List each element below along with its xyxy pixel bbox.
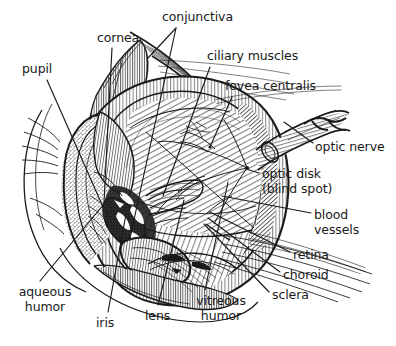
label-pupil: pupil	[22, 62, 52, 77]
label-choroid: choroid	[283, 268, 329, 283]
label-aqueous-humor-line2: humor	[25, 299, 65, 314]
label-cornea: cornea	[97, 31, 139, 46]
label-aqueous-humor-line1: aqueous	[19, 284, 72, 299]
label-optic-disk-line2: (blind spot)	[262, 181, 332, 196]
label-vitreous-humor-line2: humor	[201, 308, 241, 323]
label-vitreous-humor: vitreoushumor	[186, 294, 256, 323]
label-optic-disk-line1: optic disk	[262, 166, 321, 181]
label-sclera: sclera	[272, 288, 309, 303]
label-conjunctiva: conjunctiva	[162, 10, 233, 25]
label-blood-vessels-line2: vessels	[314, 222, 359, 237]
label-iris: iris	[96, 316, 114, 331]
label-retina: retina	[293, 248, 329, 263]
label-blood-vessels-line1: blood	[314, 207, 348, 222]
label-optic-nerve: optic nerve	[315, 140, 385, 155]
label-ciliary-muscles: ciliary muscles	[207, 49, 298, 64]
label-vitreous-humor-line1: vitreous	[196, 293, 246, 308]
label-fovea-centralis: fovea centralis	[225, 79, 316, 94]
label-lens: lens	[145, 309, 170, 324]
label-optic-disk: optic disk(blind spot)	[262, 167, 332, 196]
eye-anatomy-figure: pupil cornea conjunctiva ciliary muscles…	[0, 0, 396, 346]
label-aqueous-humor: aqueoushumor	[8, 285, 82, 314]
label-blood-vessels: bloodvessels	[314, 208, 359, 237]
